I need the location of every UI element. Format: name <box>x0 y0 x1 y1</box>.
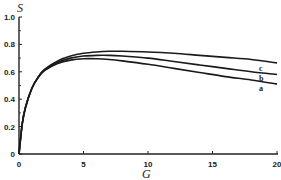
y-tick-label: 0.2 <box>4 123 16 132</box>
x-axis-label: G <box>142 167 151 180</box>
curve-c <box>19 51 277 154</box>
curve-label-c: c <box>259 64 263 73</box>
curve-a <box>19 59 277 154</box>
y-tick-label: 0 <box>11 150 16 159</box>
y-tick-label: 0.4 <box>4 95 16 104</box>
y-tick-label: 1.0 <box>4 13 16 22</box>
x-tick-label: 15 <box>208 160 217 169</box>
x-tick-label: 20 <box>273 160 281 169</box>
y-axis-label: S <box>17 1 23 15</box>
chart: 00.20.40.60.81.0 05101520 S G c b a <box>0 0 281 180</box>
x-tick-label: 5 <box>81 160 86 169</box>
y-tick-label: 0.6 <box>4 68 16 77</box>
x-tick-label: 0 <box>17 160 22 169</box>
curve-b <box>19 55 277 154</box>
curves <box>19 51 277 154</box>
curve-label-a: a <box>259 84 263 93</box>
curve-label-b: b <box>259 74 264 83</box>
y-tick-label: 0.8 <box>4 40 16 49</box>
